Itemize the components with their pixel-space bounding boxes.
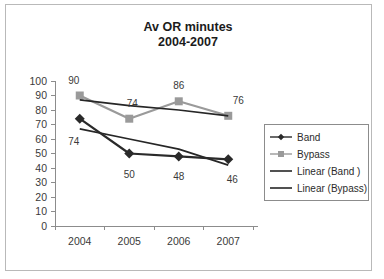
y-axis-tick-label: 90	[35, 89, 47, 101]
chart-subtitle: 2004-2007	[158, 35, 218, 49]
data-label: 74	[68, 136, 80, 147]
series-marker	[76, 92, 84, 100]
legend-item-label: Linear (Bypass)	[297, 183, 367, 194]
y-axis-tick-label: 40	[35, 162, 47, 174]
data-label: 76	[233, 95, 245, 106]
series-line	[80, 119, 229, 160]
x-axis-tick-label: 2005	[118, 235, 142, 247]
series-marker	[223, 154, 233, 164]
series-band	[75, 114, 234, 165]
data-label: 48	[173, 171, 185, 182]
chart-canvas: Av OR minutes 2004-2007 0102030405060708…	[6, 5, 371, 270]
chart-title-group: Av OR minutes 2004-2007	[143, 20, 232, 49]
y-axis-tick-label: 10	[35, 205, 47, 217]
x-axis-tick-label: 2007	[217, 235, 241, 247]
chart-legend[interactable]: BandBypassLinear (Band )Linear (Bypass)	[264, 124, 368, 200]
data-label: 90	[68, 75, 80, 86]
plot-series	[75, 92, 234, 166]
y-axis-tick-label: 80	[35, 104, 47, 116]
legend-item-label: Band	[297, 132, 320, 143]
data-label: 50	[124, 169, 136, 180]
series-line	[80, 100, 229, 116]
x-axis: 2004200520062007	[55, 226, 258, 247]
y-axis-tick-label: 100	[29, 75, 47, 87]
y-axis-tick-label: 60	[35, 133, 47, 145]
y-axis: 0102030405060708090100	[29, 75, 55, 232]
data-label: 46	[227, 174, 239, 185]
chart-picture-frame: Av OR minutes 2004-2007 0102030405060708…	[5, 4, 372, 271]
y-axis-tick-label: 0	[41, 220, 47, 232]
data-label: 86	[173, 80, 185, 91]
series-marker	[175, 97, 183, 105]
chart-title: Av OR minutes	[143, 20, 232, 34]
series-marker	[125, 115, 133, 123]
legend-swatch-marker	[278, 151, 284, 157]
x-axis-tick-label: 2006	[167, 235, 191, 247]
y-axis-tick-label: 30	[35, 176, 47, 188]
legend-item-label: Linear (Band )	[297, 166, 360, 177]
series-linear-bypass	[80, 100, 229, 116]
legend-item-label: Bypass	[297, 149, 330, 160]
y-axis-tick-label: 50	[35, 147, 47, 159]
series-marker	[174, 151, 184, 161]
x-axis-tick-label: 2004	[68, 235, 92, 247]
screenshot-root: Av OR minutes 2004-2007 0102030405060708…	[0, 0, 384, 279]
y-axis-tick-label: 70	[35, 118, 47, 130]
data-label: 74	[127, 98, 139, 109]
y-axis-tick-label: 20	[35, 191, 47, 203]
